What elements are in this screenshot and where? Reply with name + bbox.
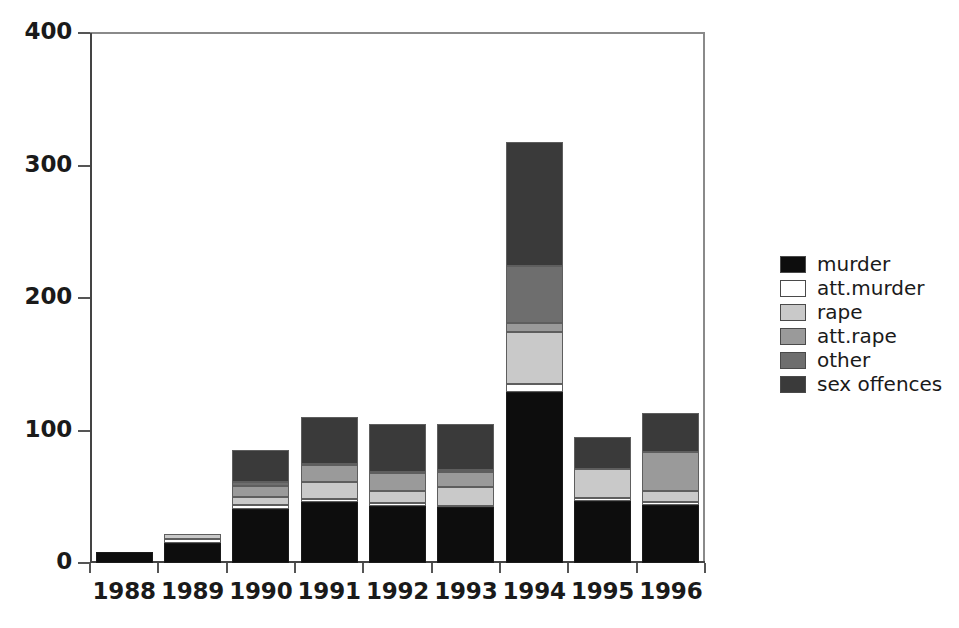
bar-segment-sex-offences[interactable]	[232, 450, 289, 482]
x-tick-mark	[157, 563, 159, 573]
bar-segment-murder[interactable]	[232, 509, 289, 563]
x-tick-mark	[226, 563, 228, 573]
bar-1988[interactable]	[96, 33, 153, 563]
bar-segment-att-murder[interactable]	[164, 539, 221, 543]
bar-segment-rape[interactable]	[642, 491, 699, 502]
x-tick-mark	[567, 563, 569, 573]
bar-segment-rape[interactable]	[437, 487, 494, 506]
bar-segment-sex-offences[interactable]	[369, 424, 426, 472]
x-tick-mark	[362, 563, 364, 573]
legend-item-att-murder[interactable]: att.murder	[780, 276, 955, 300]
bar-segment-att-murder[interactable]	[301, 499, 358, 502]
x-tick-mark	[636, 563, 638, 573]
bar-1991[interactable]	[301, 33, 358, 563]
y-tick-mark	[78, 430, 90, 432]
legend-item-sex-offences[interactable]: sex offences	[780, 372, 955, 396]
bars-layer	[90, 33, 705, 563]
legend-label: att.rape	[817, 326, 897, 346]
legend-swatch-icon	[780, 376, 806, 393]
bar-segment-att-murder[interactable]	[642, 502, 699, 505]
x-tick-mark	[704, 563, 706, 573]
x-tick-mark	[499, 563, 501, 573]
bar-segment-other[interactable]	[232, 482, 289, 486]
y-tick-label: 400	[0, 18, 72, 44]
bar-segment-att-rape[interactable]	[369, 473, 426, 492]
bar-1995[interactable]	[574, 33, 631, 563]
legend-label: other	[817, 350, 870, 370]
legend-item-murder[interactable]: murder	[780, 252, 955, 276]
y-tick-label: 0	[0, 548, 72, 574]
bar-segment-murder[interactable]	[506, 392, 563, 563]
y-tick-mark	[78, 297, 90, 299]
legend-item-other[interactable]: other	[780, 348, 955, 372]
bar-segment-sex-offences[interactable]	[301, 417, 358, 463]
bar-1989[interactable]	[164, 33, 221, 563]
legend-label: att.murder	[817, 278, 925, 298]
legend-swatch-icon	[780, 280, 806, 297]
bar-1990[interactable]	[232, 33, 289, 563]
legend-label: murder	[817, 254, 890, 274]
bar-segment-rape[interactable]	[369, 491, 426, 503]
legend-label: sex offences	[817, 374, 942, 394]
bar-segment-att-murder[interactable]	[574, 498, 631, 501]
bar-segment-att-murder[interactable]	[232, 505, 289, 509]
bar-segment-rape[interactable]	[301, 482, 358, 499]
bar-segment-rape[interactable]	[506, 332, 563, 384]
bar-segment-murder[interactable]	[642, 505, 699, 563]
bar-segment-murder[interactable]	[301, 502, 358, 563]
bar-segment-sex-offences[interactable]	[506, 142, 563, 267]
bar-segment-att-rape[interactable]	[437, 472, 494, 488]
bar-1993[interactable]	[437, 33, 494, 563]
bar-1992[interactable]	[369, 33, 426, 563]
x-tick-mark	[431, 563, 433, 573]
y-tick-label: 200	[0, 283, 72, 309]
x-tick-mark	[294, 563, 296, 573]
legend-swatch-icon	[780, 328, 806, 345]
x-tick-mark	[89, 563, 91, 573]
bar-segment-rape[interactable]	[164, 534, 221, 539]
bar-segment-other[interactable]	[506, 266, 563, 323]
legend-label: rape	[817, 302, 862, 322]
bar-segment-murder[interactable]	[437, 507, 494, 563]
chart-legend: murderatt.murderrapeatt.rapeothersex off…	[780, 252, 955, 396]
legend-item-att-rape[interactable]: att.rape	[780, 324, 955, 348]
y-tick-mark	[78, 165, 90, 167]
bar-segment-murder[interactable]	[96, 552, 153, 563]
bar-segment-sex-offences[interactable]	[642, 413, 699, 451]
bar-segment-att-rape[interactable]	[232, 486, 289, 497]
bar-segment-murder[interactable]	[369, 506, 426, 563]
bar-segment-att-rape[interactable]	[506, 323, 563, 332]
y-tick-label: 100	[0, 416, 72, 442]
bar-1994[interactable]	[506, 33, 563, 563]
legend-swatch-icon	[780, 304, 806, 321]
bar-segment-att-murder[interactable]	[369, 503, 426, 506]
bar-1996[interactable]	[642, 33, 699, 563]
bar-segment-rape[interactable]	[574, 469, 631, 498]
legend-item-rape[interactable]: rape	[780, 300, 955, 324]
stacked-bar-chart: 0100200300400 19881989199019911992199319…	[0, 0, 959, 628]
bar-segment-att-rape[interactable]	[642, 452, 699, 492]
bar-segment-sex-offences[interactable]	[437, 424, 494, 470]
legend-swatch-icon	[780, 352, 806, 369]
y-tick-mark	[78, 32, 90, 34]
bar-segment-att-rape[interactable]	[301, 465, 358, 482]
legend-swatch-icon	[780, 256, 806, 273]
bar-segment-att-murder[interactable]	[506, 384, 563, 392]
bar-segment-murder[interactable]	[164, 543, 221, 563]
x-tick-label-1996: 1996	[631, 578, 711, 604]
y-tick-label: 300	[0, 151, 72, 177]
bar-segment-rape[interactable]	[232, 497, 289, 505]
bar-segment-sex-offences[interactable]	[574, 437, 631, 469]
bar-segment-murder[interactable]	[574, 501, 631, 563]
